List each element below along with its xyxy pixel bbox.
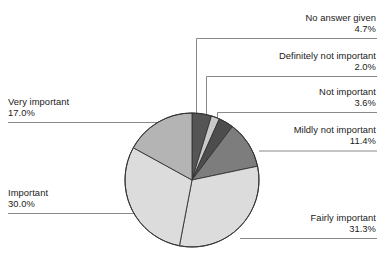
callout-important-value: 30.0%: [8, 198, 168, 209]
callout-not-important-label: Not important: [176, 86, 376, 97]
callout-fairly-important: Fairly important 31.3%: [176, 212, 376, 235]
callout-very-important-value: 17.0%: [8, 107, 168, 118]
callout-mildly-not-important-label: Mildly not important: [166, 124, 376, 135]
callout-mildly-not-important: Mildly not important 11.4%: [166, 124, 376, 147]
callout-definitely-not-important-value: 2.0%: [156, 61, 376, 72]
callout-no-answer-given-label: No answer given: [176, 12, 376, 23]
callout-very-important: Very important 17.0%: [8, 96, 168, 119]
callout-important-label: Important: [8, 187, 168, 198]
pie-chart-figure: No answer given 4.7% Definitely not impo…: [0, 0, 378, 268]
callout-no-answer-given: No answer given 4.7%: [176, 12, 376, 35]
callout-not-important-value: 3.6%: [176, 97, 376, 108]
callout-definitely-not-important-label: Definitely not important: [156, 50, 376, 61]
callout-fairly-important-label: Fairly important: [176, 212, 376, 223]
callout-no-answer-given-value: 4.7%: [176, 23, 376, 34]
callout-definitely-not-important: Definitely not important 2.0%: [156, 50, 376, 73]
callout-very-important-label: Very important: [8, 96, 168, 107]
callout-important: Important 30.0%: [8, 187, 168, 210]
callout-not-important: Not important 3.6%: [176, 86, 376, 109]
callout-fairly-important-value: 31.3%: [176, 223, 376, 234]
callout-mildly-not-important-value: 11.4%: [166, 135, 376, 146]
